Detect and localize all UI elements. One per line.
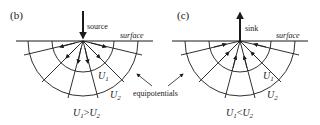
- equipotential-outer: [28, 41, 138, 96]
- u2-label: U2: [267, 89, 278, 102]
- panel-b: (b) source surface U1 U2: [10, 9, 153, 120]
- relation-c: U1<U2: [226, 107, 254, 120]
- flow-lines: [24, 41, 142, 98]
- pointer-arrow-left-icon: [137, 74, 152, 86]
- pointer-arrow-right-icon: [168, 74, 183, 86]
- panel-c: (c) sink surface U1 U2 U1: [172, 9, 308, 120]
- panel-b-label: (b): [10, 9, 23, 22]
- u1-label: U1: [263, 70, 274, 83]
- surface-label: surface: [120, 31, 144, 40]
- equipotentials-label: equipotentials: [133, 89, 178, 98]
- diagram-canvas: (b) source surface U1 U2: [0, 0, 320, 125]
- equipotentials-callout: equipotentials: [133, 74, 183, 98]
- flow-arrows-outward: [60, 43, 106, 63]
- equipotential-inner: [52, 41, 114, 72]
- relation-b: U1>U2: [73, 107, 101, 120]
- equipotential-outer: [185, 41, 295, 96]
- panel-c-label: (c): [177, 9, 190, 22]
- sink-label: sink: [245, 24, 258, 33]
- flow-arrows-inward: [214, 44, 266, 68]
- u2-label: U2: [110, 89, 121, 102]
- u1-label: U1: [98, 70, 109, 83]
- source-label: source: [87, 22, 108, 31]
- surface-label: surface: [276, 31, 300, 40]
- flow-lines: [181, 41, 299, 98]
